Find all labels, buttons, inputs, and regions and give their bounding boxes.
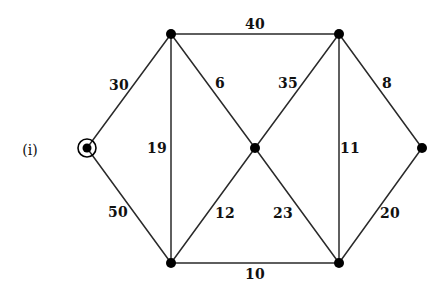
graph-edge-source-bl [87,148,171,263]
edge-weight-tl-center: 6 [215,76,225,90]
right-node[interactable] [417,143,427,153]
figure-label: (i) [22,143,37,157]
nodes-group [78,29,427,268]
graph-edge-tl-center [171,34,255,148]
graph-edge-center-bl [171,148,255,263]
edge-weight-bl-br: 10 [245,267,265,281]
edge-weight-source-bl: 50 [108,205,128,219]
graph-edge-tr-right [339,34,422,148]
edge-weight-tl-tr: 40 [245,17,265,31]
edge-weight-center-bl: 12 [215,206,235,220]
edge-weight-tr-br: 11 [340,141,360,155]
source-node[interactable] [83,144,92,153]
graph-figure: 3050401963511812231020 (i) [0,0,447,294]
graph-edge-center-br [255,148,339,263]
edge-weight-tr-center: 35 [278,76,298,90]
top-right-node[interactable] [334,29,344,39]
edge-weight-right-br: 20 [380,206,400,220]
edge-weight-source-tl: 30 [109,78,129,92]
edge-weight-center-br: 23 [273,206,293,220]
edge-weight-tl-bl: 19 [147,141,167,155]
top-left-node[interactable] [166,29,176,39]
graph-edge-tr-center [255,34,339,148]
graph-canvas [0,0,447,294]
edge-weight-tr-right: 8 [382,76,392,90]
bottom-right-node[interactable] [334,258,344,268]
bottom-left-node[interactable] [166,258,176,268]
center-node[interactable] [250,143,260,153]
